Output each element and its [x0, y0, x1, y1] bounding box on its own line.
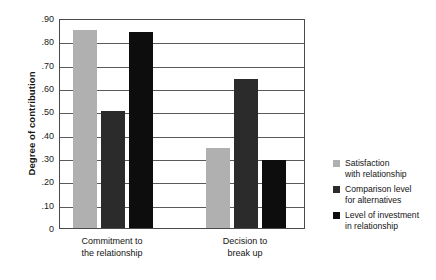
legend-item: Comparison level for alternatives — [333, 184, 433, 205]
y-tick-label: .70 — [24, 61, 54, 71]
bar-chart-figure: Degree of contribution .90.80.70.60.50.4… — [0, 0, 436, 280]
y-tick-label: .20 — [24, 177, 54, 187]
legend-label: Level of investment in relationship — [345, 210, 419, 231]
y-tick-label: .90 — [24, 14, 54, 24]
y-tick-label: 0 — [24, 224, 54, 234]
y-tick-label: .30 — [24, 154, 54, 164]
bar — [234, 79, 258, 228]
legend-swatch — [333, 212, 340, 219]
legend-swatch — [333, 186, 340, 193]
y-tick-label: .40 — [24, 131, 54, 141]
y-tick-label: .60 — [24, 84, 54, 94]
x-group-label-line: Commitment to — [52, 236, 172, 248]
legend-label: Comparison level for alternatives — [345, 184, 411, 205]
legend-swatch — [333, 160, 340, 167]
bar — [262, 160, 286, 228]
y-tick-label: .50 — [24, 107, 54, 117]
x-group-label-line: the relationship — [52, 248, 172, 260]
bar — [206, 148, 230, 229]
bar — [73, 30, 97, 228]
x-group-label: Commitment tothe relationship — [52, 236, 172, 259]
plot-area — [59, 19, 305, 229]
x-group-label: Decision tobreak up — [185, 236, 305, 259]
bar — [129, 32, 153, 228]
x-group-label-line: Decision to — [185, 236, 305, 248]
y-tick-label: .10 — [24, 201, 54, 211]
legend-label: Satisfaction with relationship — [345, 158, 407, 179]
legend: Satisfaction with relationshipComparison… — [333, 158, 433, 236]
y-tick-label: .80 — [24, 37, 54, 47]
x-group-label-line: break up — [185, 248, 305, 260]
legend-item: Level of investment in relationship — [333, 210, 433, 231]
legend-item: Satisfaction with relationship — [333, 158, 433, 179]
bar — [101, 111, 125, 228]
